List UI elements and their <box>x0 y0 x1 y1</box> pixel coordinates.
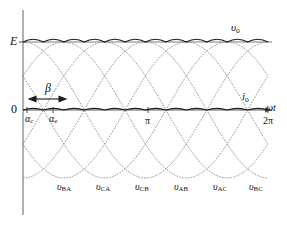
series-label-vba: υBA <box>57 182 71 193</box>
series-label-vo: υo <box>231 22 240 34</box>
series-label-vo-sub: o <box>236 26 240 35</box>
axis-tick-label-pi: π <box>145 116 150 126</box>
alpha-c-sub: c <box>30 117 33 124</box>
series-label-vbc: υBC <box>249 182 263 193</box>
beta-span-arrow <box>29 96 66 101</box>
series-label-vca: υCA <box>96 182 110 193</box>
series-label-io-sub: o <box>245 95 249 104</box>
alpha-e-sub: e <box>54 117 57 124</box>
annotation-label-alpha-e: αe <box>49 114 57 125</box>
axis-tick-label-2pi: 2π <box>263 116 273 126</box>
axis-label-omega-t: ωt <box>266 103 276 113</box>
axis-label-zero: 0 <box>11 103 17 115</box>
annotation-label-beta: β <box>45 82 51 94</box>
series-label-io: io <box>242 91 249 103</box>
waveform-figure: E 0 υo io ωt 2π π β αc αe υBA υCA υCB υA… <box>0 0 287 227</box>
vcb-sub: CB <box>140 185 149 192</box>
series-label-vcb: υCB <box>135 182 149 193</box>
annotation-label-alpha-c: αc <box>25 114 33 125</box>
axis-label-peak-E: E <box>10 35 17 47</box>
vba-sub: BA <box>62 185 71 192</box>
vab-sub: AB <box>179 185 188 192</box>
series-label-vac: υAC <box>213 182 227 193</box>
vbc-sub: BC <box>254 185 263 192</box>
vca-sub: CA <box>101 185 110 192</box>
vac-sub: AC <box>218 185 227 192</box>
series-label-vab: υAB <box>174 182 188 193</box>
